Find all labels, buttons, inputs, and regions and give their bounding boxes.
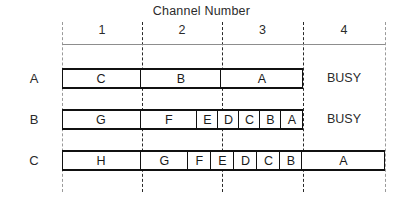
- channel-number-label-4: 4: [303, 23, 385, 37]
- slot-cell-C-F[interactable]: F: [188, 152, 211, 169]
- slot-cell-B-D[interactable]: D: [218, 111, 239, 128]
- channel-number-label-2: 2: [142, 23, 222, 37]
- slot-cell-B-C[interactable]: C: [239, 111, 260, 128]
- slot-cell-C-C[interactable]: C: [257, 152, 280, 169]
- slot-cell-B-F[interactable]: F: [141, 111, 197, 128]
- slot-bar-row-B: GFEDCBA: [62, 109, 303, 130]
- slot-cell-C-H[interactable]: H: [61, 152, 141, 169]
- row-label-B: B: [22, 112, 46, 127]
- row-label-C: C: [22, 153, 46, 168]
- slot-cell-B-B[interactable]: B: [260, 111, 281, 128]
- slot-cell-B-E[interactable]: E: [197, 111, 218, 128]
- channel-number-label-1: 1: [62, 23, 142, 37]
- row-label-A: A: [22, 71, 46, 86]
- slot-cell-A-A[interactable]: A: [221, 70, 302, 87]
- slot-bar-row-C: HGFEDCBA: [62, 150, 385, 171]
- channel-divider-line-5: [385, 22, 386, 192]
- slot-cell-C-D[interactable]: D: [234, 152, 257, 169]
- slot-cell-C-E[interactable]: E: [211, 152, 234, 169]
- slot-cell-C-A[interactable]: A: [302, 152, 384, 169]
- slot-cell-C-G[interactable]: G: [141, 152, 188, 169]
- page-title: Channel Number: [0, 4, 403, 18]
- channel-allocation-diagram: Channel Number 1234 ACBABUSYBGFEDCBABUSY…: [0, 0, 403, 202]
- slot-cell-B-G[interactable]: G: [61, 111, 141, 128]
- slot-cell-A-C[interactable]: C: [61, 70, 141, 87]
- channel-number-label-3: 3: [222, 23, 303, 37]
- slot-cell-A-B[interactable]: B: [141, 70, 221, 87]
- slot-cell-C-B[interactable]: B: [280, 152, 302, 169]
- status-badge-busy-row-A: BUSY: [303, 71, 385, 85]
- slot-bar-row-A: CBA: [62, 68, 303, 89]
- slot-cell-B-A[interactable]: A: [281, 111, 302, 128]
- status-badge-busy-row-B: BUSY: [303, 112, 385, 126]
- header-rule: [62, 44, 385, 45]
